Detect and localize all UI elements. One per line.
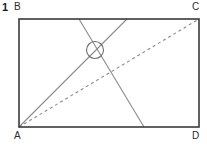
geometry-drawing xyxy=(0,0,207,146)
vertex-label-c: C xyxy=(192,1,199,13)
diagonal-ac-dashed xyxy=(19,19,199,127)
line-from-a-to-top-edge xyxy=(19,19,127,127)
vertex-label-b: B xyxy=(14,1,21,13)
figure-canvas: 1 B C A D xyxy=(0,0,207,146)
vertex-label-d: D xyxy=(192,130,199,142)
intersection-circle xyxy=(87,42,104,59)
vertex-label-a: A xyxy=(14,130,21,142)
